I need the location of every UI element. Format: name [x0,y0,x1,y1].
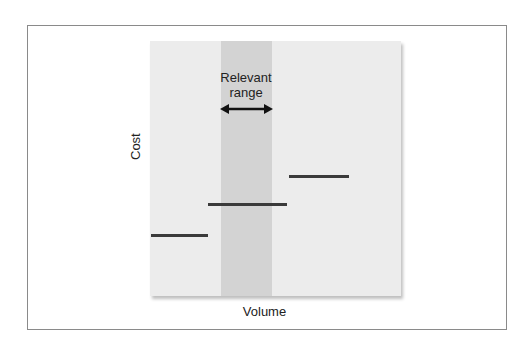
annotation-label: Relevant range [210,70,282,100]
step-segment-3 [289,175,349,178]
double-arrow-icon [220,104,273,114]
step-segment-2 [208,203,287,206]
annotation-line-2: range [210,85,282,100]
x-axis-label: Volume [0,304,529,319]
y-axis-label: Cost [128,133,143,160]
annotation-line-1: Relevant [210,70,282,85]
step-segment-1 [151,234,208,237]
